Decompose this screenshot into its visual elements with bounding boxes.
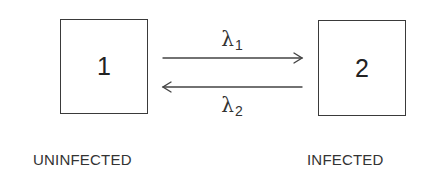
state-label-infected: INFECTED [307, 151, 384, 168]
rate-symbol: λ [221, 27, 234, 51]
arrow-1-to-2 [163, 53, 302, 63]
state-number: 2 [355, 54, 369, 83]
rate-symbol: λ [221, 93, 234, 117]
rate-label-lambda-2: λ2 [221, 93, 242, 119]
state-number: 1 [97, 52, 111, 81]
state-box-infected: 2 [318, 20, 406, 116]
rate-label-lambda-1: λ1 [221, 27, 242, 53]
arrow-2-to-1 [163, 82, 302, 92]
state-box-uninfected: 1 [60, 19, 148, 114]
state-label-uninfected: UNINFECTED [33, 151, 132, 168]
rate-subscript: 2 [235, 103, 243, 119]
rate-subscript: 1 [235, 37, 243, 53]
